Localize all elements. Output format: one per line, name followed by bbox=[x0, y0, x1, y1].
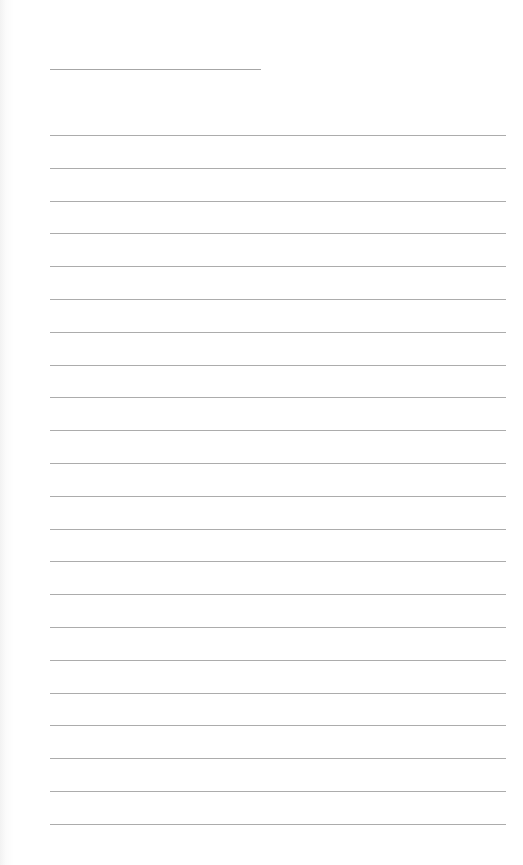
ruled-line bbox=[50, 365, 506, 366]
ruled-line bbox=[50, 725, 506, 726]
ruled-line bbox=[50, 824, 506, 825]
ruled-line bbox=[50, 299, 506, 300]
ruled-line bbox=[50, 693, 506, 694]
ruled-line bbox=[50, 594, 506, 595]
ruled-line bbox=[50, 233, 506, 234]
ruled-line bbox=[50, 168, 506, 169]
ruled-line bbox=[50, 201, 506, 202]
ruled-line bbox=[50, 397, 506, 398]
ruled-line bbox=[50, 791, 506, 792]
ruled-line bbox=[50, 561, 506, 562]
ruled-line bbox=[50, 135, 506, 136]
ruled-line bbox=[50, 463, 506, 464]
ruled-line bbox=[50, 332, 506, 333]
ruled-line bbox=[50, 529, 506, 530]
ruled-line bbox=[50, 266, 506, 267]
header-name-line bbox=[50, 69, 261, 70]
ruled-line bbox=[50, 660, 506, 661]
ruled-line bbox=[50, 627, 506, 628]
ruled-line bbox=[50, 430, 506, 431]
lined-paper-page bbox=[0, 0, 523, 865]
ruled-line bbox=[50, 758, 506, 759]
ruled-line bbox=[50, 496, 506, 497]
